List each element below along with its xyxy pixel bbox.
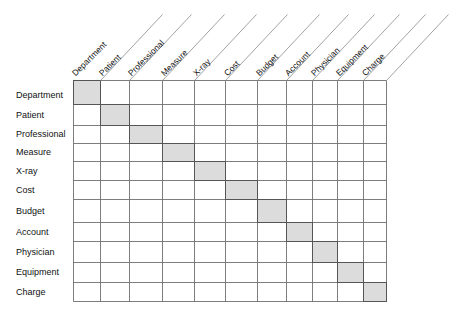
shaded-cell <box>226 181 258 200</box>
dependency-matrix <box>0 0 450 315</box>
row-label-account: Account <box>16 227 49 237</box>
shaded-cell <box>364 283 387 302</box>
row-label-patient: Patient <box>16 110 44 120</box>
row-label-charge: Charge <box>16 287 46 297</box>
row-label-cost: Cost <box>16 185 35 195</box>
shaded-cell <box>74 81 101 105</box>
shaded-cell <box>287 223 313 242</box>
shaded-cell <box>313 242 338 263</box>
row-label-measure: Measure <box>16 147 51 157</box>
shaded-cell <box>101 105 130 126</box>
diagonal-shaded-cells <box>74 81 387 302</box>
shaded-cell <box>163 144 195 162</box>
row-label-budget: Budget <box>16 206 45 216</box>
row-label-department: Department <box>16 90 63 100</box>
row-label-physician: Physician <box>16 247 55 257</box>
shaded-cell <box>195 162 226 181</box>
row-label-x-ray: X-ray <box>16 166 38 176</box>
row-label-equipment: Equipment <box>16 267 59 277</box>
shaded-cell <box>130 126 163 144</box>
shaded-cell <box>338 263 364 283</box>
row-label-professional: Professional <box>16 129 66 139</box>
shaded-cell <box>258 200 287 223</box>
